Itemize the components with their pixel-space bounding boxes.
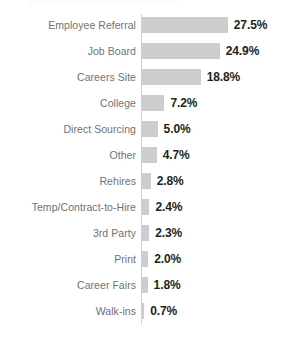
bar-row: Print2.0% <box>0 251 283 277</box>
clipped-title-fragment <box>28 0 178 4</box>
bar <box>142 251 148 267</box>
bar-and-value: 18.8% <box>142 69 240 85</box>
category-label: Rehires <box>99 173 136 189</box>
bar <box>142 121 158 137</box>
bar <box>142 225 149 241</box>
category-label: Walk-ins <box>96 303 136 319</box>
category-label: College <box>100 95 136 111</box>
bar <box>142 173 151 189</box>
value-label: 2.4% <box>155 199 182 215</box>
bar-and-value: 7.2% <box>142 95 197 111</box>
bar-and-value: 1.8% <box>142 277 181 293</box>
bar-and-value: 2.4% <box>142 199 182 215</box>
bar-and-value: 5.0% <box>142 121 191 137</box>
value-label: 2.0% <box>154 251 181 267</box>
category-label: Other <box>109 147 136 163</box>
bar-and-value: 2.8% <box>142 173 184 189</box>
bar-and-value: 2.0% <box>142 251 181 267</box>
category-label: Career Fairs <box>77 277 136 293</box>
bar-row: Rehires2.8% <box>0 173 283 199</box>
category-label: 3rd Party <box>93 225 136 241</box>
value-label: 1.8% <box>154 277 181 293</box>
value-label: 4.7% <box>163 147 190 163</box>
value-label: 27.5% <box>234 17 268 33</box>
bar-row: Career Fairs1.8% <box>0 277 283 303</box>
category-label: Employee Referral <box>48 17 136 33</box>
bar-row: Employee Referral27.5% <box>0 17 283 43</box>
category-label: Careers Site <box>77 69 136 85</box>
bar-row: College7.2% <box>0 95 283 121</box>
bar <box>142 277 148 293</box>
value-label: 24.9% <box>226 43 260 59</box>
bar-rows: Employee Referral27.5%Job Board24.9%Care… <box>0 17 283 329</box>
bar-and-value: 2.3% <box>142 225 182 241</box>
bar-and-value: 24.9% <box>142 43 259 59</box>
bar <box>142 95 164 111</box>
bar-row: Walk-ins0.7% <box>0 303 283 329</box>
value-label: 7.2% <box>170 95 197 111</box>
value-label: 2.3% <box>155 225 182 241</box>
bar-and-value: 4.7% <box>142 147 190 163</box>
bar <box>142 17 228 33</box>
bar-row: Direct Sourcing5.0% <box>0 121 283 147</box>
bar-row: Careers Site18.8% <box>0 69 283 95</box>
bar-row: Temp/Contract-to-Hire2.4% <box>0 199 283 225</box>
value-label: 5.0% <box>164 121 191 137</box>
category-label: Temp/Contract-to-Hire <box>32 199 136 215</box>
bar-row: Other4.7% <box>0 147 283 173</box>
bar <box>142 303 144 319</box>
category-label: Job Board <box>88 43 136 59</box>
category-label: Print <box>114 251 136 267</box>
value-label: 0.7% <box>150 303 177 319</box>
value-label: 18.8% <box>207 69 241 85</box>
bar-and-value: 0.7% <box>142 303 177 319</box>
bar <box>142 69 201 85</box>
value-label: 2.8% <box>157 173 184 189</box>
bar <box>142 43 220 59</box>
bar-and-value: 27.5% <box>142 17 267 33</box>
bar-row: 3rd Party2.3% <box>0 225 283 251</box>
bar-chart: Employee Referral27.5%Job Board24.9%Care… <box>0 0 283 337</box>
bar-row: Job Board24.9% <box>0 43 283 69</box>
bar <box>142 199 149 215</box>
category-label: Direct Sourcing <box>63 121 136 137</box>
bar <box>142 147 157 163</box>
